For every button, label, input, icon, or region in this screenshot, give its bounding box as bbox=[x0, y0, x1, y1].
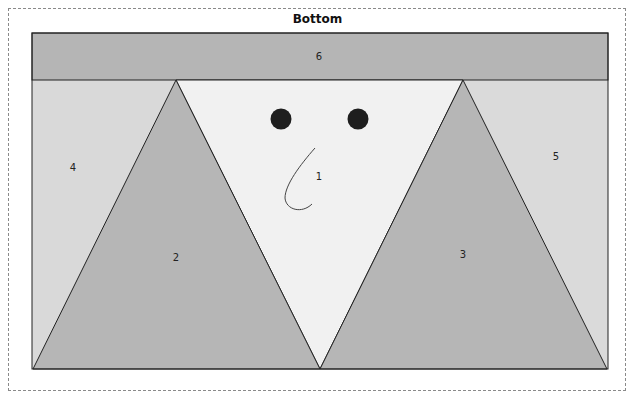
region-label-2: 2 bbox=[173, 252, 179, 263]
region-label-1: 1 bbox=[316, 171, 322, 182]
region-label-4: 4 bbox=[70, 162, 76, 173]
left-eye-icon bbox=[271, 109, 292, 130]
region-label-5: 5 bbox=[553, 151, 559, 162]
quilt-block-diagram: 6 1 4 5 2 3 bbox=[0, 0, 635, 400]
region-label-3: 3 bbox=[460, 249, 466, 260]
region-label-6: 6 bbox=[316, 51, 322, 62]
right-eye-icon bbox=[348, 109, 369, 130]
